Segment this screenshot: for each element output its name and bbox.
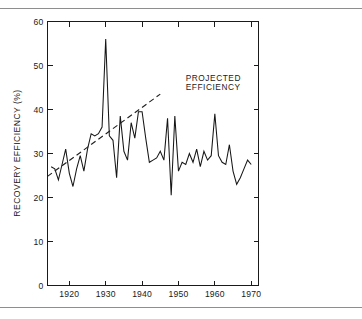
y-axis-title: RECOVERY EFFICIENCY (%) — [12, 89, 22, 216]
y-tick-label: 60 — [34, 17, 44, 27]
recovery-efficiency-series — [51, 39, 251, 195]
x-tick-label: 1970 — [241, 289, 261, 299]
projected-efficiency-label-line: PROJECTED — [186, 73, 241, 83]
figure-root: 0102030405060 192019301940195019601970 R… — [0, 0, 362, 319]
y-axis-tick-labels: 0102030405060 — [34, 17, 44, 291]
y-tick-label: 50 — [34, 61, 44, 71]
x-tick-label: 1960 — [205, 289, 225, 299]
y-tick-label: 0 — [39, 281, 44, 291]
x-tick-label: 1950 — [169, 289, 189, 299]
y-tick-label: 10 — [34, 237, 44, 247]
y-tick-label: 20 — [34, 193, 44, 203]
recovery-efficiency-chart: 0102030405060 192019301940195019601970 R… — [0, 0, 362, 319]
y-axis-ticks — [48, 22, 53, 286]
right-axis-ticks — [254, 22, 259, 286]
x-axis-ticks — [69, 281, 251, 286]
projected-efficiency-series — [48, 94, 161, 176]
y-tick-label: 40 — [34, 105, 44, 115]
projected-efficiency-label-line: EFFICIENCY — [186, 82, 241, 92]
x-tick-label: 1940 — [132, 289, 152, 299]
projected-efficiency-annotation: PROJECTEDEFFICIENCY — [186, 73, 241, 93]
y-tick-label: 30 — [34, 149, 44, 159]
x-tick-label: 1930 — [96, 289, 116, 299]
top-axis-ticks — [69, 22, 251, 27]
x-axis-tick-labels: 192019301940195019601970 — [59, 289, 261, 299]
x-tick-label: 1920 — [59, 289, 79, 299]
